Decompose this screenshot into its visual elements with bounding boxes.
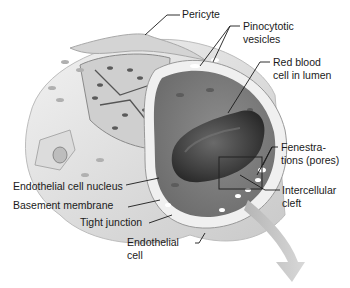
capillary-diagram: Pericyte Pinocytotic vesicles Red blood … <box>0 0 350 288</box>
label-pinocytotic-line1: Pinocytotic <box>243 20 294 33</box>
label-fenestrations: Fenestra- tions (pores) <box>281 141 339 166</box>
label-endothelial-line2: cell <box>127 249 179 262</box>
label-intercellular-cleft: Intercellular cleft <box>282 184 336 209</box>
label-rbc-line1: Red blood <box>273 56 331 69</box>
label-basement-membrane: Basement membrane <box>13 199 113 212</box>
label-intercellular-line1: Intercellular <box>282 184 336 197</box>
label-tight-junction: Tight junction <box>80 216 142 229</box>
label-endothelial-line1: Endothelial <box>127 236 179 249</box>
label-intercellular-line2: cleft <box>282 197 336 210</box>
label-rbc-line2: cell in lumen <box>273 69 331 82</box>
label-fenestrations-line2: tions (pores) <box>281 154 339 167</box>
label-pinocytotic-line2: vesicles <box>243 33 294 46</box>
label-fenestrations-line1: Fenestra- <box>281 141 339 154</box>
label-red-blood-cell: Red blood cell in lumen <box>273 56 331 81</box>
label-endothelial-nucleus: Endothelial cell nucleus <box>13 180 123 193</box>
label-endothelial-cell: Endothelial cell <box>127 236 179 261</box>
label-pericyte: Pericyte <box>182 8 220 21</box>
label-pinocytotic-vesicles: Pinocytotic vesicles <box>243 20 294 45</box>
